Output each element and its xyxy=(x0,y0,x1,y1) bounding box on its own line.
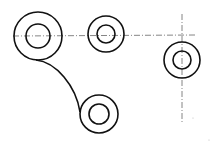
centerline-horizontal xyxy=(13,35,196,36)
circle-group-d xyxy=(80,95,118,133)
circle-d-inner xyxy=(89,104,109,124)
speck xyxy=(208,139,209,140)
tangent-arc-a-d xyxy=(36,60,80,112)
technical-drawing xyxy=(0,0,221,148)
speck xyxy=(192,117,193,118)
circle-b-outer xyxy=(88,16,124,52)
circle-group-b xyxy=(88,16,124,52)
circle-b-inner xyxy=(97,25,115,43)
circle-d-outer xyxy=(80,95,118,133)
